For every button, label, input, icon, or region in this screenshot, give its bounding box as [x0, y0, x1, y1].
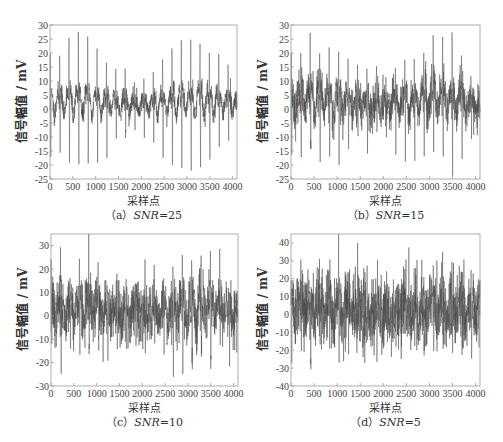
y-tick-label: 20	[279, 273, 289, 284]
x-tick-label: 3000	[419, 388, 439, 399]
caption-prefix: （d）	[350, 416, 379, 429]
y-tick-label: 40	[279, 237, 289, 248]
x-tick-label: 1000	[327, 388, 347, 399]
plot-area: -40-30-20-100102030400500100015002000250…	[0, 0, 503, 442]
caption-value: =5	[405, 416, 421, 429]
y-axis-label: 信号幅值 / mV	[253, 271, 270, 351]
y-tick-label: 10	[279, 291, 289, 302]
x-tick-label: 1500	[350, 388, 370, 399]
y-tick-label: 0	[284, 309, 289, 320]
y-tick-label: -20	[276, 345, 289, 356]
x-tick-label: 0	[289, 388, 294, 399]
y-tick-label: -10	[276, 327, 289, 338]
x-tick-label: 3500	[442, 388, 462, 399]
subplot-caption: （d）SNR=5	[326, 413, 446, 429]
y-tick-label: -40	[276, 381, 289, 392]
signal-line	[291, 234, 480, 369]
y-tick-label: 30	[279, 255, 289, 266]
x-tick-label: 2500	[396, 388, 416, 399]
x-tick-label: 4000	[466, 388, 486, 399]
y-tick-label: -30	[276, 363, 289, 374]
x-tick-label: 500	[307, 388, 322, 399]
x-tick-label: 2000	[373, 388, 393, 399]
caption-var: SNR	[379, 416, 404, 429]
